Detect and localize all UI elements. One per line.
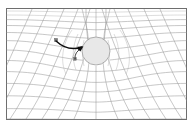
central-mass-sphere: [82, 37, 110, 65]
spacetime-curvature-figure: Spacetime curvature grid with central ma…: [0, 0, 194, 134]
spacetime-diagram-svg: [0, 0, 194, 134]
